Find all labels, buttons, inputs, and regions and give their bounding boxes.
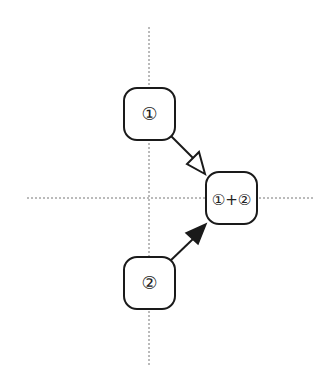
filled-arrowhead-icon [186,224,206,244]
node-1-label: ① [141,103,157,124]
node-1[interactable]: ① [124,88,175,140]
node-2-label: ② [141,272,157,293]
edge-node1-to-node3 [170,135,205,174]
diagram-canvas: ① ② ①+② [0,0,334,382]
edge-node2-to-node3 [169,224,206,262]
node-sum-label: ①+② [212,191,251,209]
node-sum[interactable]: ①+② [206,172,257,224]
node-2[interactable]: ② [124,257,175,309]
